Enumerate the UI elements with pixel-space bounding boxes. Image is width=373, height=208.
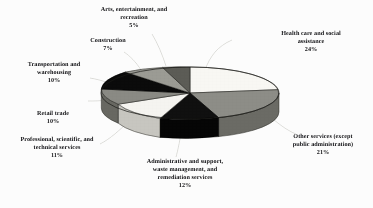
label-health-care-line2: assistance [298,38,325,45]
label-construction-line1: Construction [90,37,125,44]
label-other-services-percent: 21% [274,149,372,157]
label-arts-line2: recreation [120,14,147,21]
label-other-services: Other services (except public administra… [274,133,372,157]
label-administrative-line1: Administrative and support, [147,158,223,165]
label-retail-line1: Retail trade [37,110,69,117]
label-professional-line1: Professional, scientific, and [20,136,93,143]
label-administrative-line2: waste management, and [153,166,217,173]
label-health-care-social-assistance: Health care and social assistance 24% [258,30,364,54]
label-administrative-line3: remediation services [157,174,212,181]
slice-side-administrative [160,118,219,139]
label-transportation-line1: Transportation and [28,61,81,68]
label-construction-percent: 7% [56,45,160,53]
label-other-services-line1: Other services (except [293,133,352,140]
label-health-care-line1: Health care and social [281,30,341,37]
label-transportation-percent: 10% [17,77,91,85]
label-administrative-support-waste: Administrative and support, waste manage… [123,158,247,190]
label-transportation-warehousing: Transportation and warehousing 10% [17,61,91,85]
label-administrative-percent: 12% [123,182,247,190]
label-health-care-percent: 24% [258,46,364,54]
label-professional-scientific-technical: Professional, scientific, and technical … [2,136,112,160]
label-arts-percent: 5% [76,22,192,30]
label-transportation-line2: warehousing [37,69,71,76]
label-arts-line1: Arts, entertainment, and [101,6,168,13]
label-other-services-line2: public administration) [293,141,353,148]
leader-line-health-care [205,40,232,70]
label-arts-entertainment-recreation: Arts, entertainment, and recreation 5% [76,6,192,30]
slice-top-health-care [190,67,278,93]
label-retail-percent: 10% [20,118,86,126]
label-retail-trade: Retail trade 10% [20,110,86,126]
chart-page: Arts, entertainment, and recreation 5% C… [0,0,373,208]
label-professional-percent: 11% [2,152,112,160]
label-construction: Construction 7% [56,37,160,53]
leader-line-construction [124,52,141,70]
label-professional-line2: technical services [34,144,81,151]
